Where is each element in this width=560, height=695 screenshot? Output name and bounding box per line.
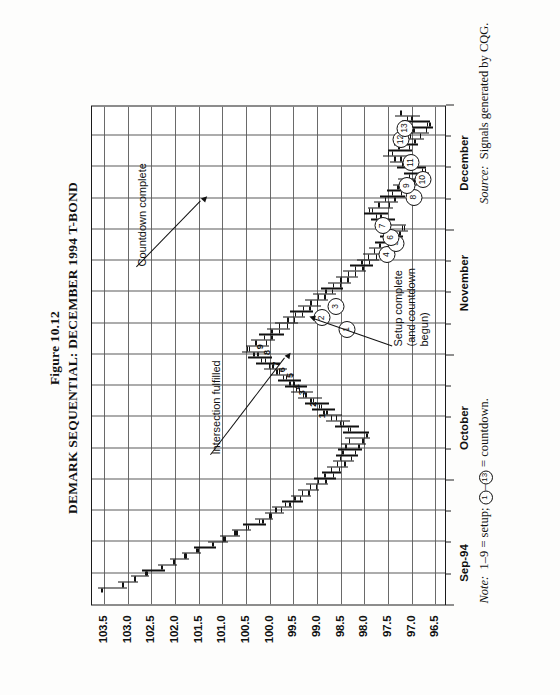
ohlc-bar	[298, 489, 319, 490]
ohlc-bar	[335, 425, 360, 426]
ohlc-open-tick	[321, 404, 322, 408]
ohlc-open-tick	[392, 191, 393, 195]
time-axis-tick	[446, 573, 451, 574]
time-gridline	[92, 509, 445, 510]
time-gridline	[92, 478, 445, 479]
ohlc-bar	[343, 431, 369, 432]
annotation-countdown-complete: Countdown complete	[136, 163, 149, 266]
ohlc-open-tick	[337, 461, 338, 465]
ohlc-close-tick	[358, 444, 359, 448]
price-tick-label: 100.0	[263, 615, 275, 643]
ohlc-open-tick	[249, 346, 250, 350]
ohlc-open-tick	[413, 128, 414, 132]
time-gridline	[92, 384, 445, 385]
price-tick-label: 103.0	[121, 615, 133, 643]
price-tick-label: 97.5	[381, 615, 393, 637]
ohlc-open-tick	[234, 530, 235, 534]
ohlc-close-tick	[317, 300, 318, 304]
ohlc-open-tick	[348, 271, 349, 275]
ohlc-open-tick	[173, 559, 174, 563]
rotated-figure-body: Figure 10.12 DEMARK SEQUENTIAL: DECEMBER…	[45, 20, 515, 675]
time-gridline	[92, 541, 445, 542]
month-label-sep-94: Sep-94	[458, 544, 470, 582]
annotation-setup-complete: Setup complete (and countdown begun)	[392, 268, 431, 346]
ohlc-bar	[158, 564, 177, 565]
price-tick-label: 99.0	[310, 615, 322, 637]
ohlc-close-tick	[302, 312, 303, 316]
time-axis-tick	[446, 135, 451, 136]
ohlc-open-tick	[350, 427, 351, 431]
ohlc-close-tick	[309, 306, 310, 310]
ohlc-close-tick	[362, 438, 363, 442]
ohlc-bar	[208, 541, 228, 542]
source-prefix: Source:	[477, 165, 491, 203]
ohlc-open-tick	[392, 151, 393, 155]
price-gridline	[222, 106, 223, 604]
ohlc-close-tick	[362, 266, 363, 270]
ohlc-open-tick	[295, 312, 296, 316]
ohlc-close-tick	[308, 490, 309, 494]
ohlc-open-tick	[259, 519, 260, 523]
price-tick-label: 102.0	[168, 615, 180, 643]
price-gridline	[104, 106, 105, 604]
ohlc-open-tick	[325, 289, 326, 293]
note-dash: –	[477, 484, 491, 490]
time-axis-tick	[446, 604, 454, 605]
note-circled-thirteen: 13	[479, 470, 493, 484]
time-axis-tick	[446, 354, 454, 355]
setup-marker-2: 2	[308, 401, 318, 406]
ohlc-close-tick	[198, 548, 199, 552]
price-gridline	[435, 106, 436, 604]
ohlc-open-tick	[294, 496, 295, 500]
setup-marker-4: 4	[292, 384, 302, 389]
time-axis-tick	[446, 167, 451, 168]
ohlc-open-tick	[196, 548, 197, 552]
setup-marker-8: 8	[262, 349, 272, 354]
ohlc-bar	[336, 454, 358, 455]
ohlc-open-tick	[101, 588, 102, 592]
ohlc-close-tick	[333, 473, 334, 477]
ohlc-close-tick	[261, 358, 262, 362]
ohlc-close-tick	[236, 530, 237, 534]
price-tick-label: 98.5	[334, 615, 346, 637]
ohlc-bar	[170, 558, 189, 559]
price-gridline	[128, 106, 129, 604]
ohlc-open-tick	[427, 122, 428, 126]
figure-title: DEMARK SEQUENTIAL: DECEMBER 1994 T-BOND	[65, 20, 81, 675]
ohlc-bar	[255, 518, 273, 519]
ohlc-close-tick	[409, 145, 410, 149]
ohlc-open-tick	[333, 283, 334, 287]
time-gridline	[92, 416, 445, 417]
ohlc-bar	[298, 397, 322, 398]
ohlc-open-tick	[402, 225, 403, 229]
ohlc-close-tick	[332, 289, 333, 293]
ohlc-open-tick	[184, 553, 185, 557]
ohlc-open-tick	[378, 202, 379, 206]
month-label-october: October	[458, 405, 470, 449]
ohlc-open-tick	[400, 156, 401, 160]
countdown-marker-7: 7	[375, 217, 392, 234]
ohlc-close-tick	[420, 133, 421, 137]
price-axis: 103.5103.0102.5102.0101.5101.0100.5100.0…	[91, 609, 446, 675]
price-gridline	[364, 106, 365, 604]
countdown-marker-10: 10	[414, 171, 431, 188]
ohlc-open-tick	[271, 329, 272, 333]
ohlc-close-tick	[351, 456, 352, 460]
ohlc-close-tick	[300, 496, 301, 500]
ohlc-bar	[220, 535, 240, 536]
price-gridline	[388, 106, 389, 604]
ohlc-open-tick	[264, 335, 265, 339]
time-axis-tick	[446, 292, 451, 293]
ohlc-open-tick	[303, 306, 304, 310]
ohlc-close-tick	[262, 519, 263, 523]
countdown-marker-11: 11	[402, 154, 419, 171]
ohlc-close-tick	[355, 450, 356, 454]
ohlc-close-tick	[339, 467, 340, 471]
price-gridline	[341, 106, 342, 604]
price-gridline	[151, 106, 152, 604]
ohlc-close-tick	[271, 335, 272, 339]
ohlc-bar	[388, 149, 413, 150]
ohlc-open-tick	[275, 507, 276, 511]
ohlc-open-tick	[372, 208, 373, 212]
ohlc-bar	[326, 420, 350, 421]
